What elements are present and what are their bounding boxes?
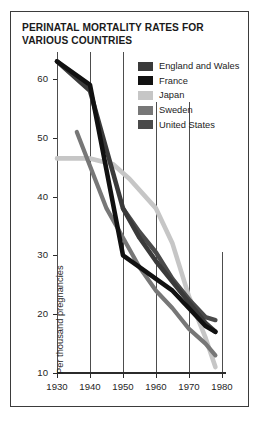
xtick-label-1960: 1960 (141, 381, 171, 392)
legend-swatch-icon (138, 91, 153, 100)
legend-item-japan[interactable]: Japan (138, 88, 248, 103)
legend-item-united-states[interactable]: United States (138, 117, 248, 132)
chart-legend: England and Wales France Japan Sweden Un… (138, 59, 248, 132)
legend-label: Sweden (159, 105, 193, 115)
xtick-label-1980: 1980 (207, 381, 237, 392)
ytick-label-30: 30 (28, 249, 48, 260)
ytick-label-50: 50 (28, 132, 48, 143)
legend-label: England and Wales (159, 61, 239, 71)
xtick-label-1970: 1970 (174, 381, 204, 392)
xtick-label-1930: 1930 (42, 381, 72, 392)
y-axis-title: Per thousand pregnancies (55, 265, 65, 374)
xtick-label-1950: 1950 (108, 381, 138, 392)
legend-swatch-icon (138, 76, 153, 85)
legend-item-england-and-wales[interactable]: England and Wales (138, 59, 248, 74)
legend-swatch-icon (138, 120, 153, 129)
ytick-label-40: 40 (28, 191, 48, 202)
x-tick-marks (57, 373, 222, 378)
legend-label: France (159, 76, 188, 86)
legend-item-france[interactable]: France (138, 74, 248, 89)
ytick-label-60: 60 (28, 73, 48, 84)
legend-item-sweden[interactable]: Sweden (138, 103, 248, 118)
legend-label: United States (159, 120, 215, 130)
legend-swatch-icon (138, 62, 153, 71)
chart-card: PERINATAL MORTALITY RATES FOR VARIOUS CO… (10, 11, 249, 407)
ytick-label-10: 10 (28, 367, 48, 378)
xtick-label-1940: 1940 (75, 381, 105, 392)
legend-label: Japan (159, 90, 184, 100)
ytick-label-20: 20 (28, 308, 48, 319)
legend-swatch-icon (138, 106, 153, 115)
